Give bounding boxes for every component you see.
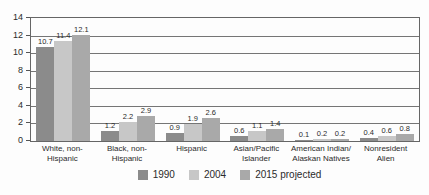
data-label: 1.9 <box>187 115 197 123</box>
bar-2015-projected-cat4 <box>331 139 349 141</box>
data-label: 1.2 <box>105 122 115 130</box>
data-label: 1.1 <box>252 122 262 130</box>
y-tick-label: 12 <box>0 31 23 40</box>
category-label: Asian/Pacific Islander <box>220 144 293 164</box>
bar-1990-cat0 <box>36 47 54 141</box>
y-tick-label: 14 <box>0 13 23 22</box>
bar-2015-projected-cat0 <box>72 35 90 141</box>
legend-item: 2015 projected <box>240 169 321 180</box>
data-label: 0.6 <box>381 127 391 135</box>
plot-area: 10.711.412.11.22.22.90.91.92.60.61.11.40… <box>30 17 420 142</box>
y-tick-label: 4 <box>0 101 23 110</box>
bar-1990-cat5 <box>360 138 378 142</box>
legend-swatch-icon <box>189 170 199 180</box>
category-label: Black, non- Hispanic <box>91 144 164 164</box>
y-tick-label: 8 <box>0 66 23 75</box>
category-label: Hispanic <box>155 144 228 154</box>
bar-2015-projected-cat5 <box>396 134 414 141</box>
legend-swatch-icon <box>138 170 148 180</box>
bar-2004-cat3 <box>248 131 266 141</box>
legend-label: 1990 <box>153 169 175 180</box>
y-axis: 02468101214 <box>0 0 26 195</box>
bar-1990-cat2 <box>166 133 184 141</box>
data-label: 0.2 <box>317 130 327 138</box>
data-label: 2.9 <box>141 107 151 115</box>
data-label: 0.9 <box>169 124 179 132</box>
bar-2004-cat1 <box>119 122 137 141</box>
data-label: 0.4 <box>363 129 373 137</box>
data-label: 2.6 <box>205 109 215 117</box>
data-label: 0.2 <box>335 130 345 138</box>
bar-2015-projected-cat2 <box>202 118 220 141</box>
data-label: 11.4 <box>56 32 70 40</box>
legend-swatch-icon <box>240 170 250 180</box>
data-label: 10.7 <box>38 38 53 46</box>
bar-2015-projected-cat3 <box>266 129 284 141</box>
bar-2015-projected-cat1 <box>137 116 155 142</box>
x-axis-labels: White, non- HispanicBlack, non- Hispanic… <box>30 144 418 168</box>
legend-item: 2004 <box>189 169 226 180</box>
legend-label: 2004 <box>204 169 226 180</box>
y-tick-label: 2 <box>0 118 23 127</box>
y-tick-label: 0 <box>0 136 23 145</box>
bar-1990-cat4 <box>295 140 313 141</box>
bar-2004-cat0 <box>54 41 72 141</box>
bar-2004-cat5 <box>378 136 396 141</box>
data-label: 12.1 <box>74 26 89 34</box>
legend: 199020042015 projected <box>30 169 429 180</box>
category-label: Nonresident Alien <box>349 144 422 164</box>
data-label: 0.8 <box>399 125 409 133</box>
bar-1990-cat3 <box>230 136 248 141</box>
legend-label: 2015 projected <box>255 169 321 180</box>
bar-chart-figure: 02468101214 10.711.412.11.22.22.90.91.92… <box>0 0 429 195</box>
bar-2004-cat2 <box>184 124 202 141</box>
category-label: White, non- Hispanic <box>26 144 99 164</box>
data-label: 1.4 <box>270 120 280 128</box>
data-label: 0.1 <box>299 131 309 139</box>
y-tick-label: 6 <box>0 83 23 92</box>
bar-2004-cat4 <box>313 139 331 141</box>
y-tick-label: 10 <box>0 48 23 57</box>
bar-1990-cat1 <box>101 131 119 142</box>
legend-item: 1990 <box>138 169 175 180</box>
data-label: 2.2 <box>123 113 133 121</box>
category-label: American Indian/ Alaskan Natives <box>285 144 358 164</box>
data-label: 0.6 <box>234 127 244 135</box>
